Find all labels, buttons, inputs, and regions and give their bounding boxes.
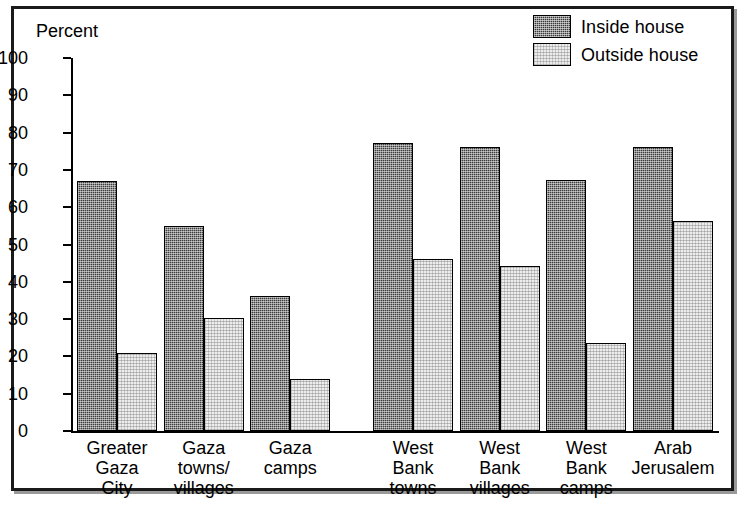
bar-inside-house bbox=[77, 181, 117, 431]
bar-outside-house bbox=[117, 353, 157, 431]
y-axis-tick bbox=[63, 430, 71, 432]
legend-label-inside-house: Inside house bbox=[581, 17, 684, 37]
y-axis-tick bbox=[63, 132, 71, 134]
y-axis-tick bbox=[63, 244, 71, 246]
y-axis-tick-label: 100 bbox=[0, 49, 28, 67]
bar-inside-house bbox=[250, 296, 290, 431]
y-axis-tick bbox=[63, 355, 71, 357]
y-axis-tick bbox=[63, 206, 71, 208]
y-axis-tick bbox=[63, 169, 71, 171]
y-axis-title: Percent bbox=[36, 21, 98, 41]
y-axis-tick-label: 20 bbox=[0, 347, 28, 365]
bar-outside-house bbox=[500, 266, 540, 431]
y-axis-tick bbox=[63, 318, 71, 320]
y-axis-tick-label: 90 bbox=[0, 86, 28, 104]
chart-figure: Percent Inside house Outside house 01020… bbox=[11, 6, 734, 491]
y-axis-tick bbox=[63, 94, 71, 96]
bar-inside-house bbox=[460, 147, 500, 431]
x-axis-category-label: Arab Jerusalem bbox=[613, 438, 733, 478]
y-axis-tick bbox=[63, 57, 71, 59]
bar-inside-house bbox=[164, 226, 204, 431]
y-axis-tick-label: 10 bbox=[0, 385, 28, 403]
bar-outside-house bbox=[673, 221, 713, 431]
y-axis-tick bbox=[63, 281, 71, 283]
x-axis-line bbox=[71, 431, 719, 433]
bar-outside-house bbox=[586, 343, 626, 431]
y-axis-tick-label: 0 bbox=[0, 422, 28, 440]
y-axis-tick-label: 30 bbox=[0, 310, 28, 328]
plot-area bbox=[71, 58, 719, 431]
y-axis-tick bbox=[63, 393, 71, 395]
y-axis-tick-label: 70 bbox=[0, 161, 28, 179]
bar-outside-house bbox=[290, 379, 330, 431]
legend-swatch-inside-house bbox=[533, 15, 571, 38]
y-axis-tick-label: 80 bbox=[0, 124, 28, 142]
bar-outside-house bbox=[204, 318, 244, 431]
bar-inside-house bbox=[633, 147, 673, 431]
y-axis-tick-label: 60 bbox=[0, 198, 28, 216]
bar-inside-house bbox=[546, 180, 586, 431]
bar-inside-house bbox=[373, 143, 413, 431]
legend-item-inside-house: Inside house bbox=[533, 15, 698, 38]
x-axis-category-label: Gaza camps bbox=[230, 438, 350, 478]
y-axis-tick-label: 50 bbox=[0, 236, 28, 254]
y-axis-tick-label: 40 bbox=[0, 273, 28, 291]
bar-outside-house bbox=[413, 259, 453, 431]
